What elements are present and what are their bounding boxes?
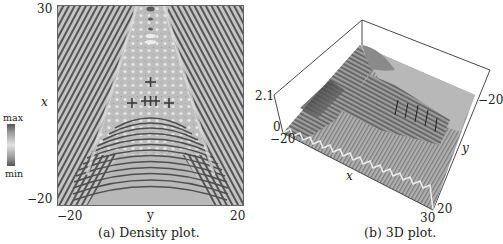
- y-axis-label-3d: y: [462, 142, 469, 154]
- y-axis-label: x: [41, 96, 48, 108]
- surface-plot-area: [250, 0, 502, 230]
- y-axis-tick-start-3d: −20: [478, 94, 503, 106]
- y-axis-tick-top: 30: [37, 3, 52, 15]
- y-axis-tick-end-3d: 20: [437, 203, 452, 215]
- x-axis-tick-start: −20: [270, 133, 295, 145]
- y-axis-tick-bottom: −20: [27, 193, 52, 205]
- colorbar: [7, 124, 15, 166]
- z-axis-tick-top: 2.1: [255, 90, 274, 102]
- x-axis-tick-right: 20: [230, 210, 245, 222]
- colorbar-min-label: min: [5, 169, 23, 179]
- x-axis-label-3d: x: [346, 170, 353, 182]
- colorbar-max-label: max: [3, 113, 23, 123]
- x-axis-tick-end: 30: [420, 212, 435, 224]
- x-axis-tick-left: −20: [57, 210, 82, 222]
- caption-a: (a) Density plot.: [98, 226, 200, 240]
- x-axis-label: y: [147, 209, 154, 221]
- caption-b: (b) 3D plot.: [364, 226, 436, 240]
- density-plot-area: [57, 5, 244, 206]
